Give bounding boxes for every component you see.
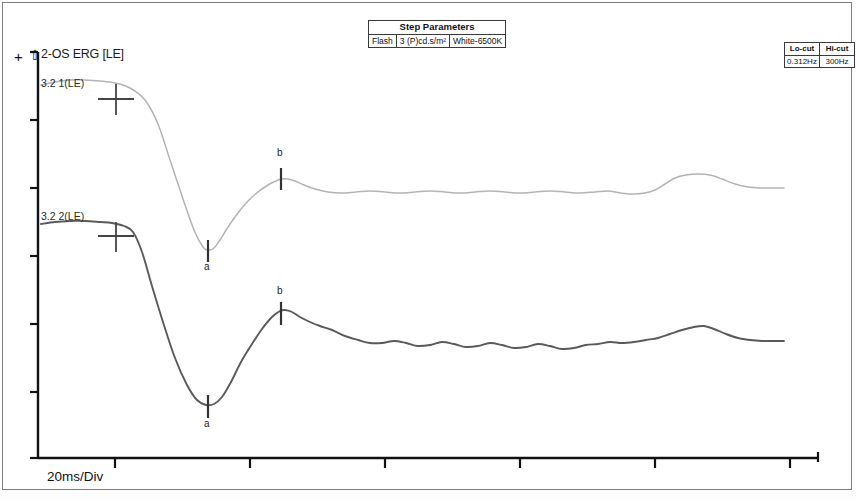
page-title: 2-OS ERG [LE] [41,48,124,61]
cursor-arrow-icon[interactable]: ⇧ [29,48,41,62]
step-parameters-box: Step Parameters Flash 3 (P)cd.s/m² White… [368,20,506,48]
filter-settings-box: Lo-cut Hi-cut 0.312Hz 300Hz [784,42,855,68]
b-wave-label-trace1: b [277,148,283,158]
x-axis-ticks [115,452,818,468]
filter-header-row: Lo-cut Hi-cut [785,43,854,56]
trace-label-2: 3.2 2(LE) [41,211,84,222]
measurement-cursor-1[interactable] [98,84,134,115]
filter-value-hi-cut: 300Hz [820,56,854,68]
step-param-intensity: 3 (P)cd.s/m² [397,35,450,47]
measurement-cursor-2[interactable] [98,222,134,252]
step-parameters-row: Flash 3 (P)cd.s/m² White-6500K [369,35,505,47]
step-param-color: White-6500K [450,35,505,47]
b-wave-label-trace2: b [277,286,283,296]
filter-value-row: 0.312Hz 300Hz [785,56,854,68]
axis-group [30,52,818,468]
a-wave-label-trace1: a [204,262,210,272]
erg-plot-canvas [0,0,856,499]
filter-header-lo-cut: Lo-cut [785,43,820,56]
filter-header-hi-cut: Hi-cut [820,43,854,56]
cursor-plus-icon[interactable]: + [14,49,23,64]
step-parameters-heading: Step Parameters [369,21,505,35]
trace-layer [41,80,784,406]
erg-trace-2 [41,221,784,405]
x-axis-label: 20ms/Div [47,470,103,484]
erg-report-screen: + ⇧ 2-OS ERG [LE] 3.2 1(LE) 3.2 2(LE) a … [0,0,856,499]
erg-trace-1 [41,80,784,250]
trace-label-1: 3.2 1(LE) [41,78,84,89]
filter-value-lo-cut: 0.312Hz [785,56,820,68]
step-param-stimulus: Flash [369,35,397,47]
a-wave-label-trace2: a [204,419,210,429]
